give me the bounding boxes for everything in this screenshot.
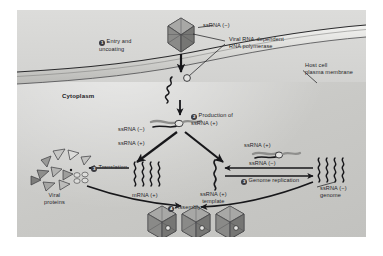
rna-strand-released [165,77,172,103]
mrna-strands [134,162,160,186]
step-number-3a: 3 [91,166,97,172]
step-number-4: 4 [168,206,174,212]
label-mrna-plus: mRNA (+) [132,192,158,199]
step-number-3b: 3 [241,179,247,185]
label-step-assembly: 4Assembly [168,204,201,212]
label-ssrna-minus-genome: ssRNA (−) genome [320,185,347,198]
label-host-membrane: Host cell plasma membrane [305,62,353,75]
viral-protein-triangles [31,149,91,191]
polymerase-particle [184,75,191,82]
label-ssrna-minus-template: ssRNA (−) [118,126,145,133]
label-viral-proteins: Viral proteins [44,192,65,205]
virion-assembled-3 [216,206,244,237]
virion-top [168,18,194,52]
protein-subunits [70,169,88,184]
ssrna-plus-template-strand [214,160,216,190]
label-step-production: 2Production of ssRNA (+) [191,112,233,127]
label-step-entry: 1Entry and uncoating [99,38,132,53]
step-assembly-text: Assembly [176,204,201,210]
figure-panel: ssRNA (−) 1Entry and uncoating Viral RNA… [17,10,366,237]
label-polymerase: Viral RNA-dependent RNA polymerase [229,36,284,49]
label-ssrna-plus-template: ssRNA (+) template [200,191,227,204]
leader-polymerase-top [193,34,225,41]
label-ssrna-plus-replication: ssRNA (+) [244,142,271,149]
ssrna-minus-genome-strands [318,158,344,182]
step-genome-replication-text: Genome replication [249,177,300,183]
label-step-genome-replication: 3Genome replication [241,177,299,185]
rna-duplex-replication [253,152,300,158]
label-ssrna-minus-virion: ssRNA (−) [203,22,230,29]
label-step-translation: 3Translation [91,164,127,172]
step-production-text: Production of ssRNA (+) [191,112,233,126]
label-ssrna-minus-replication: ssRNA (−) [249,160,276,167]
arrow-branch-to-replication [185,132,223,162]
label-cytoplasm: Cytoplasm [62,93,94,100]
label-ssrna-plus-branch: ssRNA (+) [118,140,145,147]
arrow-branch-to-translation [137,132,177,162]
step-translation-text: Translation [99,164,128,170]
